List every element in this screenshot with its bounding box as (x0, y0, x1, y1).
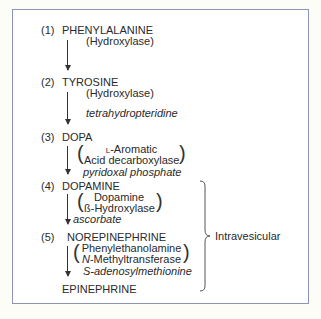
open-paren: ( (77, 190, 84, 212)
cofactor-3: pyridoxal phosphate (83, 166, 181, 178)
curly-brace-icon (198, 180, 214, 292)
step-3-number: (3) (41, 131, 54, 143)
arrow-down-icon (67, 92, 68, 124)
close-paren: ) (179, 142, 186, 164)
cofactor-4: ascorbate (73, 213, 121, 225)
enzyme-2: (Hydroxylase) (86, 87, 154, 99)
enzyme-3-line-2: Acid decarboxylase (84, 155, 179, 166)
open-paren: ( (73, 241, 80, 263)
close-paren: ) (156, 190, 163, 212)
step-2-number: (2) (41, 76, 54, 88)
step-5-number: (5) (41, 231, 54, 243)
step-1-number: (1) (41, 24, 54, 36)
compound-epinephrine: EPINEPHRINE (62, 283, 137, 295)
arrow-down-icon (67, 40, 68, 70)
cofactor-2: tetrahydropteridine (86, 107, 178, 119)
intravesicular-label: Intravesicular (215, 230, 280, 242)
cofactor-5: S-adenosylmethionine (83, 265, 192, 277)
arrow-down-icon (67, 194, 68, 224)
enzyme-1: (Hydroxylase) (86, 35, 154, 47)
close-paren: ) (183, 241, 190, 263)
enzyme-5-line-2: N-Methyltransferase (80, 254, 183, 265)
open-paren: ( (77, 142, 84, 164)
step-4-number: (4) (41, 180, 54, 192)
arrow-down-icon (67, 146, 68, 174)
arrow-down-icon (67, 246, 68, 276)
